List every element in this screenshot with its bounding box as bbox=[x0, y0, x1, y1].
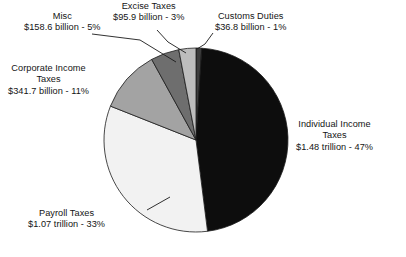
slice-label-payroll-line1: Payroll Taxes bbox=[28, 208, 105, 219]
slice-label-excise-line2: $95.9 billion - 3% bbox=[113, 12, 184, 23]
slice-label-misc-line2: $158.6 billion - 5% bbox=[24, 22, 101, 33]
slice-label-customs-duties: Customs Duties $36.8 billion - 1% bbox=[215, 11, 286, 34]
leader-line-customs bbox=[197, 33, 213, 49]
slice-label-misc-line1: Misc bbox=[24, 11, 101, 22]
pie-slice-group bbox=[104, 48, 288, 232]
slice-label-misc: Misc $158.6 billion - 5% bbox=[24, 11, 101, 34]
pie-slice-individual-income-taxes[interactable] bbox=[196, 48, 288, 231]
slice-label-corporate-line3: $341.7 billion - 11% bbox=[8, 86, 89, 97]
slice-label-customs-line2: $36.8 billion - 1% bbox=[215, 22, 286, 33]
slice-label-payroll-taxes: Payroll Taxes $1.07 trillion - 33% bbox=[28, 208, 105, 231]
slice-label-individual-line1: Individual Income bbox=[296, 119, 373, 130]
slice-label-corporate-line2: Taxes bbox=[8, 74, 89, 85]
slice-label-individual-line3: $1.48 trillion - 47% bbox=[296, 142, 373, 153]
slice-label-corporate-income-taxes: Corporate Income Taxes $341.7 billion - … bbox=[8, 63, 89, 97]
slice-label-customs-line1: Customs Duties bbox=[215, 11, 286, 22]
slice-label-corporate-line1: Corporate Income bbox=[8, 63, 89, 74]
slice-label-payroll-line2: $1.07 trillion - 33% bbox=[28, 219, 105, 230]
slice-label-individual-income-taxes: Individual Income Taxes $1.48 trillion -… bbox=[296, 119, 373, 153]
slice-label-excise-taxes: Excise Taxes $95.9 billion - 3% bbox=[113, 1, 184, 24]
pie-chart: Misc $158.6 billion - 5% Excise Taxes $9… bbox=[0, 0, 406, 257]
slice-label-excise-line1: Excise Taxes bbox=[113, 1, 184, 12]
slice-label-individual-line2: Taxes bbox=[296, 130, 373, 141]
